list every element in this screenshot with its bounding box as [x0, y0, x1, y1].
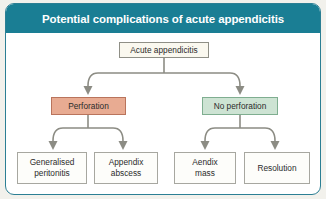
title-band: Potential complications of acute appendi…	[6, 4, 320, 33]
node-no-perforation[interactable]: No perforation	[202, 97, 278, 115]
connector-fork-level1	[88, 73, 240, 86]
arrowhead-peritonitis	[49, 141, 58, 150]
figure-container: Potential complications of acute appendi…	[0, 0, 326, 199]
node-generalised-peritonitis[interactable]: Generalised peritonitis	[17, 152, 87, 184]
diagram-panel: Potential complications of acute appendi…	[5, 3, 321, 195]
node-label-line1: Aendix	[192, 157, 217, 168]
arrowhead-mass	[201, 141, 210, 150]
connector-fork-noperforation	[205, 128, 275, 141]
arrowheads	[49, 86, 280, 150]
connector-fork-perforation	[53, 128, 123, 141]
node-label-line2: mass	[195, 168, 215, 179]
page-title: Potential complications of acute appendi…	[42, 13, 284, 25]
arrowhead-abscess	[119, 141, 128, 150]
node-appendix-abscess[interactable]: Appendix abscess	[94, 152, 158, 184]
arrowhead-perforation	[84, 86, 93, 95]
node-perforation[interactable]: Perforation	[51, 97, 126, 115]
node-appendix-mass[interactable]: Aendix mass	[174, 152, 236, 184]
node-label-line1: Resolution	[257, 163, 296, 174]
diagram-canvas: Acute appendicitis Perforation No perfor…	[6, 33, 321, 194]
node-label-line1: Generalised	[30, 157, 75, 168]
node-label-line2: peritonitis	[34, 168, 70, 179]
arrowhead-resolution	[271, 141, 280, 150]
node-label: Acute appendicitis	[130, 45, 197, 56]
node-label-line1: Appendix	[109, 157, 144, 168]
node-label: No perforation	[214, 101, 267, 112]
node-acute-appendicitis[interactable]: Acute appendicitis	[119, 42, 209, 58]
arrowhead-noperforation	[236, 86, 245, 95]
node-label: Perforation	[68, 101, 109, 112]
node-resolution[interactable]: Resolution	[244, 152, 310, 184]
node-label-line2: abscess	[111, 168, 141, 179]
